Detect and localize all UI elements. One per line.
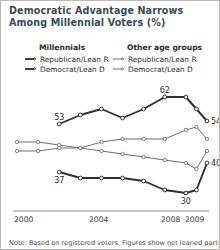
- series-point-marker: [15, 149, 18, 152]
- series-point-marker: [184, 95, 188, 99]
- series-point-marker: [184, 161, 187, 164]
- data-point-label: 54: [211, 117, 220, 126]
- legend-group-other-age-groups: Other age groups Republican/Lean R Democ…: [113, 43, 202, 74]
- series-point-marker: [100, 140, 103, 143]
- chart-plot-area: 536254373040: [1, 73, 220, 213]
- series-point-marker: [205, 137, 208, 140]
- legend-item-label: Republican/Lean R: [128, 55, 197, 64]
- series-point-marker: [205, 149, 208, 152]
- chart-series: [15, 140, 208, 170]
- series-point-marker: [100, 149, 103, 152]
- series-point-marker: [184, 191, 188, 195]
- series-point-marker: [15, 140, 18, 143]
- series-point-marker: [36, 149, 39, 152]
- chart-series: [57, 95, 209, 126]
- line-circle-marker-icon: [25, 65, 38, 73]
- line-circle-marker-icon: [113, 55, 126, 63]
- series-point-marker: [36, 140, 39, 143]
- series-line: [17, 142, 207, 169]
- series-point-marker: [142, 155, 145, 158]
- chart-series: [15, 125, 208, 152]
- x-axis-tick-label: 2008: [161, 215, 180, 224]
- series-point-marker: [195, 107, 199, 111]
- series-point-marker: [121, 116, 125, 120]
- series-point-marker: [57, 122, 61, 126]
- series-point-marker: [78, 113, 82, 117]
- series-point-marker: [163, 188, 167, 192]
- series-point-marker: [57, 170, 61, 174]
- series-point-marker: [163, 95, 167, 99]
- chart-legend: Millennials Republican/Lean R Democrat/L…: [9, 43, 213, 77]
- chart-footnote: Note: Based on registered voters. Figure…: [9, 239, 220, 247]
- legend-group-heading: Other age groups: [127, 43, 202, 52]
- series-point-marker: [163, 158, 166, 161]
- legend-item-label: Republican/Lean R: [40, 55, 109, 64]
- series-point-marker: [195, 125, 198, 128]
- x-axis: 2000 2004 2008 2009: [1, 213, 220, 229]
- data-point-label: 40: [211, 159, 220, 168]
- series-point-marker: [100, 107, 104, 111]
- x-axis-tick-label: 2004: [89, 215, 108, 224]
- series-point-marker: [205, 161, 209, 165]
- series-point-marker: [100, 176, 104, 180]
- series-point-marker: [205, 119, 209, 123]
- series-line: [17, 127, 207, 151]
- series-line: [59, 97, 207, 124]
- series-point-marker: [195, 167, 198, 170]
- line-chart-svg: 536254373040: [1, 73, 220, 213]
- x-axis-tick-label: 2009: [185, 215, 204, 224]
- data-point-label: 30: [181, 197, 191, 206]
- series-point-marker: [58, 143, 61, 146]
- series-point-marker: [163, 137, 166, 140]
- page-title: Democratic Advantage Narrows Among Mille…: [9, 5, 211, 28]
- series-point-marker: [121, 152, 124, 155]
- legend-group-heading: Millennials: [39, 43, 109, 52]
- legend-group-millennials: Millennials Republican/Lean R Democrat/L…: [25, 43, 109, 74]
- series-point-marker: [184, 128, 187, 131]
- x-axis-tick-label: 2000: [14, 215, 33, 224]
- legend-item-millennials-republican[interactable]: Republican/Lean R: [25, 54, 109, 64]
- series-point-marker: [142, 107, 146, 111]
- data-point-label: 53: [54, 113, 64, 122]
- series-point-marker: [142, 137, 145, 140]
- series-point-marker: [195, 188, 199, 192]
- series-point-marker: [78, 176, 82, 180]
- data-point-label: 62: [160, 86, 170, 95]
- line-circle-marker-icon: [113, 65, 126, 73]
- series-point-marker: [121, 176, 125, 180]
- chart-series: [57, 161, 209, 195]
- series-point-marker: [142, 179, 146, 183]
- series-point-marker: [79, 146, 82, 149]
- chart-card: Democratic Advantage Narrows Among Mille…: [0, 0, 220, 250]
- data-point-label: 37: [54, 176, 64, 185]
- legend-item-other-republican[interactable]: Republican/Lean R: [113, 54, 202, 64]
- line-circle-marker-icon: [25, 55, 38, 63]
- series-point-marker: [121, 137, 124, 140]
